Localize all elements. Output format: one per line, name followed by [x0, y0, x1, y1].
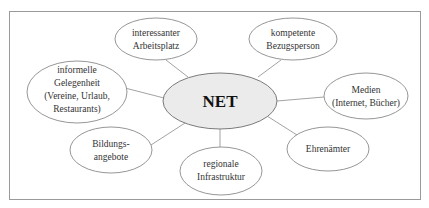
node-infrastruktur: regionale Infrastruktur — [180, 147, 262, 195]
node-label-line: Bezugsperson — [266, 41, 320, 51]
center-label: NET — [203, 92, 239, 111]
node-ehrenaemter: Ehrenämter — [287, 127, 369, 171]
node-label-line: Medien — [351, 85, 380, 95]
node-gelegenheit: informelle Gelegenheit (Vereine, Urlaub,… — [27, 61, 127, 123]
node-label-line: kompetente — [271, 28, 315, 38]
node-label-line: regionale — [203, 159, 238, 169]
node-label-line: informelle — [57, 65, 97, 75]
node-arbeitsplatz: interessanter Arbeitsplatz — [115, 18, 197, 60]
node-label-line: angebote — [94, 152, 128, 162]
net-mind-map: interessanter Arbeitsplatz kompetente Be… — [0, 0, 429, 208]
node-label-line: Arbeitsplatz — [133, 41, 179, 51]
node-label-line: Bildungs- — [92, 139, 129, 149]
node-bildung: Bildungs- angebote — [70, 127, 152, 173]
node-bezugsperson: kompetente Bezugsperson — [249, 18, 337, 60]
node-medien: Medien (Internet, Bücher) — [324, 73, 408, 119]
node-label-line: Restaurants) — [53, 104, 101, 115]
node-label-line: (Internet, Bücher) — [332, 98, 400, 109]
node-label-line: Gelegenheit — [54, 78, 100, 88]
node-label-line: (Vereine, Urlaub, — [44, 91, 110, 102]
node-label-line: Infrastruktur — [197, 172, 246, 182]
node-label-line: Ehrenämter — [306, 144, 351, 154]
center-node: NET — [163, 73, 277, 129]
node-label-line: interessanter — [132, 28, 181, 38]
